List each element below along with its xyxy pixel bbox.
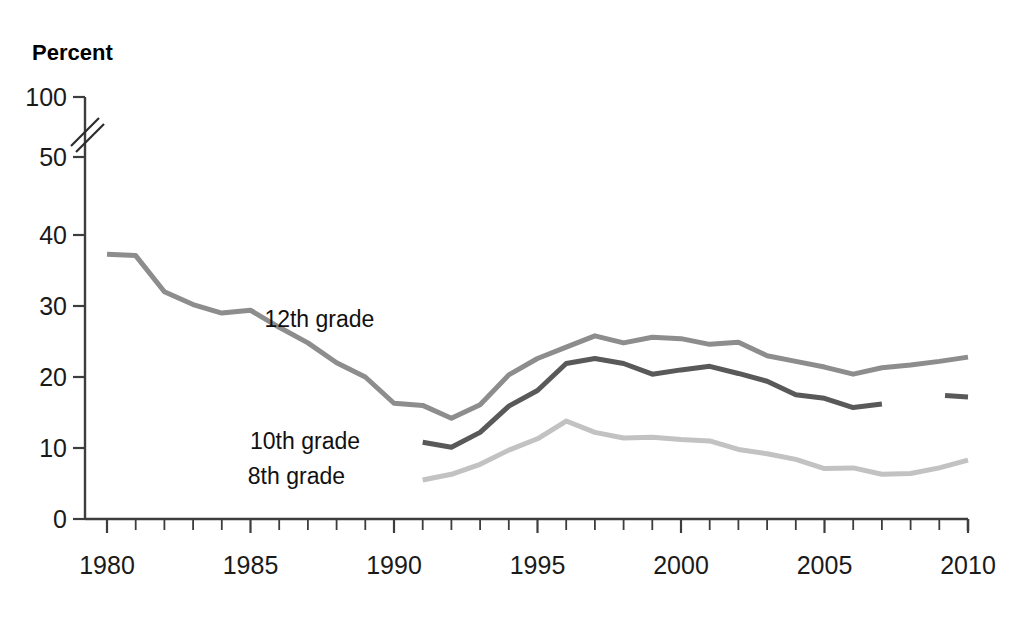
chart-container: Percent 10050403020100 19801985199019952… bbox=[0, 0, 1030, 623]
series-line-10th-grade bbox=[423, 359, 882, 448]
x-tick-label: 1980 bbox=[79, 551, 135, 579]
x-tick-label: 2005 bbox=[797, 551, 853, 579]
series-label-12th-grade: 12th grade bbox=[264, 306, 374, 332]
series-label-8th-grade: 8th grade bbox=[248, 463, 345, 489]
x-tick-label: 2000 bbox=[653, 551, 709, 579]
x-axis-minor-ticks bbox=[107, 519, 968, 533]
y-tick-label: 10 bbox=[39, 434, 67, 462]
x-axis-major-ticks: 1980198519901995200020052010 bbox=[79, 551, 996, 579]
x-tick-label: 1985 bbox=[223, 551, 279, 579]
y-tick-label: 30 bbox=[39, 292, 67, 320]
series-line-12th-grade bbox=[107, 254, 968, 418]
chart-series-group bbox=[107, 254, 968, 480]
line-chart: Percent 10050403020100 19801985199019952… bbox=[0, 0, 1030, 623]
chart-axes: Percent bbox=[32, 40, 968, 531]
y-tick-label: 50 bbox=[39, 143, 67, 171]
y-tick-label: 100 bbox=[25, 83, 67, 111]
series-label-10th-grade: 10th grade bbox=[250, 428, 360, 454]
x-tick-label: 1990 bbox=[366, 551, 422, 579]
y-tick-label: 40 bbox=[39, 221, 67, 249]
y-tick-label: 20 bbox=[39, 363, 67, 391]
x-tick-label: 1995 bbox=[510, 551, 566, 579]
series-line-10th-grade-segment-2 bbox=[945, 395, 968, 396]
series-line-8th-grade bbox=[423, 421, 968, 480]
series-inline-labels: 12th grade10th grade8th grade bbox=[248, 306, 375, 490]
y-axis-title: Percent bbox=[32, 40, 113, 65]
y-tick-label: 0 bbox=[53, 505, 67, 533]
x-tick-label: 2010 bbox=[940, 551, 996, 579]
